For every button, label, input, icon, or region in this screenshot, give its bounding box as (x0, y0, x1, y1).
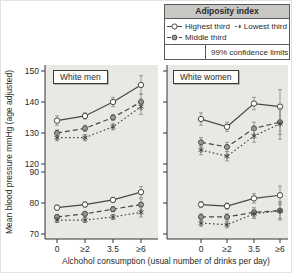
x-tick-label: 0 (55, 244, 60, 254)
data-point-filled-circle (225, 214, 230, 219)
data-point-open-circle (82, 113, 87, 118)
legend-label: Lowest third (244, 21, 287, 32)
asterisk-marker-icon (235, 22, 240, 31)
data-point-open-circle (251, 101, 256, 106)
y-tick-label: 90 (30, 167, 40, 177)
open-circle-marker-icon (167, 22, 182, 31)
data-point-open-circle (198, 116, 203, 121)
data-point-filled-circle (83, 211, 88, 216)
x-tick-label: ≥6 (275, 244, 285, 254)
legend-item-highest-third: Highest third (167, 21, 235, 32)
panel-title-white-men: White men (53, 70, 108, 84)
legend-note-row: 99% confidence limits (165, 44, 289, 59)
legend-item-lowest-third: Lowest third (235, 21, 287, 32)
x-tick-label: 3.5 (107, 244, 119, 254)
legend: Adiposity index Highest third Lowest thi… (164, 4, 290, 60)
y-tick-label: 150 (25, 66, 39, 76)
data-point-open-circle (251, 196, 256, 201)
y-tick-label: 140 (25, 97, 39, 107)
data-point-open-circle (110, 99, 115, 104)
data-point-open-circle (277, 193, 282, 198)
x-tick-label: ≥6 (136, 244, 146, 254)
legend-label: Middle third (185, 32, 226, 43)
y-tick-label: 70 (30, 229, 40, 239)
data-point-filled-circle (199, 140, 204, 145)
data-point-open-circle (82, 202, 87, 207)
legend-items: Highest third Lowest third Middle third (165, 19, 289, 44)
data-point-filled-circle (83, 126, 88, 131)
y-axis-title: Mean blood pressure mmHg (age adjusted) (4, 32, 14, 272)
x-axis-title: Alchohol consumption (usual number of dr… (41, 256, 291, 266)
panel-title-white-women: White women (173, 70, 239, 84)
data-point-filled-circle (225, 144, 230, 149)
filled-circle-marker-icon (167, 33, 182, 42)
data-point-filled-circle (199, 214, 204, 219)
legend-item-middle-third: Middle third (167, 32, 235, 43)
x-tick-label: ≥2 (80, 244, 90, 254)
data-point-open-circle (224, 124, 229, 129)
y-tick-label: 80 (30, 198, 40, 208)
legend-title: Adiposity index (165, 5, 289, 19)
data-point-open-circle (224, 203, 229, 208)
data-point-filled-circle (111, 207, 116, 212)
data-point-open-circle (138, 189, 143, 194)
data-point-open-circle (110, 197, 115, 202)
data-point-filled-circle (139, 202, 144, 207)
legend-label: Highest third (185, 21, 230, 32)
data-point-filled-circle (111, 115, 116, 120)
data-point-open-circle (54, 205, 59, 210)
figure: 1501401301209080700≥23.5≥60≥23.5≥6 White… (0, 0, 292, 273)
x-tick-label: 0 (199, 244, 204, 254)
data-point-open-circle (198, 202, 203, 207)
confidence-limits-note: 99% confidence limits (206, 48, 288, 57)
y-tick-label: 130 (25, 128, 39, 138)
x-tick-label: 3.5 (248, 244, 260, 254)
legend-note-spacer (165, 45, 206, 59)
data-point-open-circle (54, 118, 59, 123)
x-tick-label: ≥2 (222, 244, 232, 254)
data-point-open-circle (138, 82, 143, 87)
